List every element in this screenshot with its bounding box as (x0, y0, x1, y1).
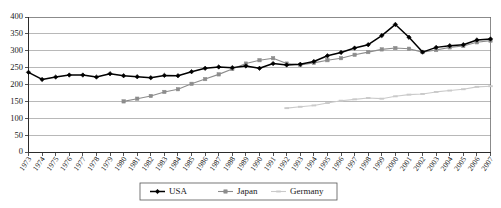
x-tick-label: 1991 (262, 155, 278, 173)
x-tick-label: 1981 (126, 155, 142, 173)
x-tick-label: 1989 (235, 155, 251, 173)
data-point-marker (217, 65, 221, 69)
y-tick-label: 350 (10, 28, 23, 38)
data-point-marker (189, 69, 193, 73)
data-point-marker (326, 59, 329, 62)
data-point-marker (203, 77, 206, 80)
y-tick-label: 150 (10, 96, 23, 106)
y-tick-label: 100 (10, 113, 23, 123)
data-point-marker (162, 73, 166, 77)
x-tick-label: 1984 (167, 155, 183, 173)
x-tick-label: 1997 (343, 155, 359, 173)
data-point-marker (258, 59, 261, 62)
x-tick-label: 2000 (384, 155, 400, 173)
data-point-marker (149, 94, 152, 97)
data-point-marker (380, 48, 383, 51)
y-tick-label: 400 (10, 11, 23, 21)
data-point-marker (108, 72, 112, 76)
x-tick-label: 1973 (17, 155, 33, 173)
x-tick-label: 1977 (72, 155, 88, 173)
x-tick-label: 1995 (316, 155, 332, 173)
data-point-marker (122, 100, 125, 103)
series-usa (26, 22, 492, 81)
data-point-marker (339, 56, 342, 59)
y-tick-label: 0 (19, 146, 23, 156)
x-tick-label: 2006 (466, 155, 482, 173)
x-tick-label: 1978 (85, 155, 101, 173)
x-tick-label: 2007 (479, 155, 495, 173)
data-point-marker (53, 75, 57, 79)
x-tick-label: 1983 (153, 155, 169, 173)
x-tick-label: 2004 (438, 155, 454, 173)
x-tick-label: 1976 (58, 155, 74, 173)
x-axis-ticks-group: 1973197419751976197719781979198019811982… (17, 152, 495, 173)
x-tick-label: 1998 (357, 155, 373, 173)
x-tick-label: 1979 (99, 155, 115, 173)
chart-canvas: 050100150200250300350400 197319741975197… (0, 0, 501, 208)
data-point-marker (149, 76, 153, 80)
data-point-marker (394, 46, 397, 49)
data-point-marker (224, 190, 227, 193)
data-point-marker (176, 88, 179, 91)
x-tick-label: 1993 (289, 155, 305, 173)
data-point-marker (94, 75, 98, 79)
series-line (287, 86, 491, 108)
x-tick-label: 2002 (411, 155, 427, 173)
x-tick-label: 2001 (398, 155, 414, 173)
x-tick-label: 1987 (207, 155, 223, 173)
data-point-marker (135, 75, 139, 79)
data-point-marker (353, 53, 356, 56)
data-point-marker (81, 73, 85, 77)
x-tick-label: 1974 (31, 155, 47, 173)
x-tick-label: 1988 (221, 155, 237, 173)
data-point-marker (257, 66, 261, 70)
x-tick-label: 1980 (112, 155, 128, 173)
data-point-marker (136, 97, 139, 100)
x-tick-label: 2003 (425, 155, 441, 173)
data-point-marker (325, 54, 329, 58)
data-point-marker (217, 73, 220, 76)
y-tick-label: 50 (15, 130, 24, 140)
data-point-marker (121, 74, 125, 78)
series-germany (284, 86, 492, 108)
x-tick-label: 1999 (371, 155, 387, 173)
data-point-marker (163, 90, 166, 93)
data-point-marker (367, 50, 370, 53)
chart-legend: USAJapanGermany (140, 183, 337, 200)
y-tick-label: 250 (10, 62, 23, 72)
legend-label: Japan (237, 186, 258, 196)
x-tick-label: 1990 (248, 155, 264, 173)
x-tick-label: 1975 (44, 155, 60, 173)
data-point-marker (352, 46, 356, 50)
y-axis-ticks-group: 050100150200250300350400 (10, 11, 28, 156)
line-chart: 050100150200250300350400 197319741975197… (0, 0, 501, 208)
x-tick-label: 1985 (180, 155, 196, 173)
data-point-marker (271, 61, 275, 65)
data-point-marker (67, 73, 71, 77)
x-tick-label: 1996 (330, 155, 346, 173)
legend-label: USA (169, 186, 188, 196)
data-point-marker (203, 66, 207, 70)
data-point-marker (190, 82, 193, 85)
x-tick-label: 1982 (140, 155, 156, 173)
y-tick-label: 200 (10, 79, 23, 89)
data-series-group (26, 22, 493, 108)
x-tick-label: 1986 (194, 155, 210, 173)
gridlines-group (29, 17, 491, 152)
x-tick-label: 2005 (452, 155, 468, 173)
data-point-marker (271, 56, 274, 59)
y-tick-label: 300 (10, 45, 23, 55)
x-tick-label: 1994 (303, 155, 319, 173)
data-point-marker (407, 47, 410, 50)
x-tick-label: 1992 (275, 155, 291, 173)
data-point-marker (176, 74, 180, 78)
legend-label: Germany (290, 186, 324, 196)
